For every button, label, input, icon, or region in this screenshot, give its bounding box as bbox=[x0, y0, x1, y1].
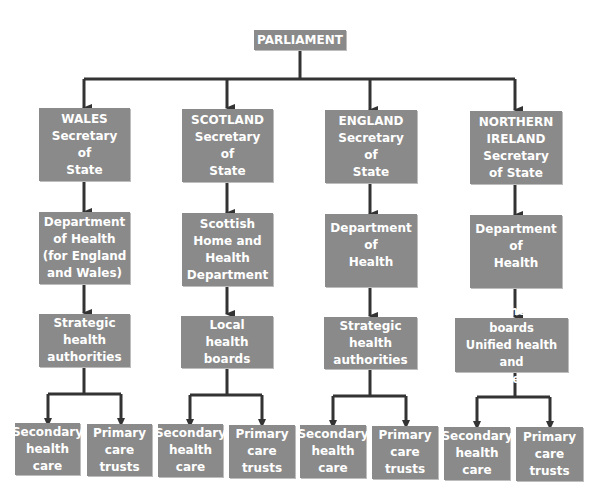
wales-secretary-box: WALES Secretary of State bbox=[39, 108, 130, 181]
ni-primary-care-label: Primary care trusts bbox=[523, 429, 576, 480]
scotland-secretary-box: SCOTLAND Secretary of State bbox=[182, 109, 273, 182]
scotland-primary-care-label: Primary care trusts bbox=[235, 426, 288, 477]
ni-authority-label: Local health boards Unified health and s… bbox=[457, 303, 566, 388]
england-secondary-care-label: Secondary health care bbox=[297, 426, 368, 477]
scotland-primary-care-box: Primary care trusts bbox=[229, 425, 295, 478]
ni-primary-care-box: Primary care trusts bbox=[516, 427, 583, 481]
scotland-authority-label: Local health boards bbox=[204, 317, 251, 368]
wales-primary-care-label: Primary care trusts bbox=[93, 425, 146, 476]
scotland-secretary-label: SCOTLAND Secretary of State bbox=[191, 112, 264, 180]
ni-secretary-box: NORTHERN IRELAND Secretary of State bbox=[470, 111, 562, 184]
wales-authority-label: Strategic health authorities bbox=[47, 315, 121, 366]
scotland-secondary-care-box: Secondary health care bbox=[158, 424, 223, 477]
wales-secondary-care-box: Secondary health care bbox=[15, 423, 80, 475]
scotland-department-label: Scottish Home and Health Department bbox=[187, 216, 268, 284]
ni-department-box: Department of Health bbox=[470, 215, 562, 288]
ni-department-label: Department of Health bbox=[475, 221, 556, 272]
england-department-label: Department of Health bbox=[330, 220, 411, 271]
england-secondary-care-box: Secondary health care bbox=[300, 425, 366, 478]
scotland-authority-box: Local health boards bbox=[181, 316, 273, 368]
parliament-label: PARLIAMENT bbox=[257, 32, 343, 49]
wales-department-box: Department of Health (for England and Wa… bbox=[39, 212, 130, 284]
wales-secondary-care-label: Secondary health care bbox=[12, 424, 83, 475]
scotland-department-box: Scottish Home and Health Department bbox=[182, 213, 273, 286]
scotland-secondary-care-label: Secondary health care bbox=[155, 425, 226, 476]
ni-authority-box: Local health boards Unified health and s… bbox=[455, 318, 568, 372]
england-department-box: Department of Health bbox=[325, 214, 417, 287]
england-primary-care-label: Primary care trusts bbox=[378, 427, 431, 478]
parliament-box: PARLIAMENT bbox=[254, 30, 346, 50]
ni-secretary-label: NORTHERN IRELAND Secretary of State bbox=[479, 114, 554, 182]
wales-primary-care-box: Primary care trusts bbox=[87, 424, 152, 476]
england-secretary-label: ENGLAND Secretary of State bbox=[338, 113, 404, 181]
england-secretary-box: ENGLAND Secretary of State bbox=[325, 110, 417, 183]
ni-secondary-care-label: Secondary health care bbox=[441, 428, 512, 479]
england-authority-label: Strategic health authorities bbox=[333, 318, 407, 369]
ni-secondary-care-box: Secondary health care bbox=[444, 427, 510, 480]
wales-department-label: Department of Health (for England and Wa… bbox=[43, 214, 127, 282]
wales-secretary-label: WALES Secretary of State bbox=[52, 111, 118, 179]
england-primary-care-box: Primary care trusts bbox=[372, 426, 438, 479]
wales-authority-box: Strategic health authorities bbox=[39, 314, 130, 367]
england-authority-box: Strategic health authorities bbox=[324, 317, 417, 369]
